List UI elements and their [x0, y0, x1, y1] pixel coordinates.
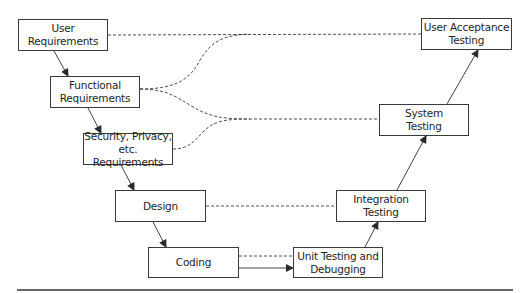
- arrow-user-req-to-func-req: [54, 51, 68, 76]
- node-label: Functional Requirements: [60, 79, 131, 105]
- node-user-requirements: User Requirements: [18, 19, 108, 51]
- node-unit-testing-debugging: Unit Testing and Debugging: [293, 247, 383, 278]
- node-coding: Coding: [148, 247, 239, 278]
- node-label: User Acceptance Testing: [424, 21, 509, 47]
- node-user-acceptance-testing: User Acceptance Testing: [421, 18, 512, 50]
- arrow-unit-test-to-integ-test: [365, 222, 378, 247]
- node-label: User Requirements: [28, 22, 99, 48]
- node-label: Security, Privacy, etc. Requirements: [84, 130, 172, 169]
- arrow-sec-req-to-design: [121, 165, 134, 190]
- node-label: Integration Testing: [353, 193, 409, 219]
- node-label: Unit Testing and Debugging: [297, 250, 379, 276]
- arrow-sys-test-to-uat: [447, 50, 478, 104]
- dashed-link-sec-req-to-sys-test: [173, 119, 250, 149]
- node-label: System Testing: [405, 107, 443, 133]
- node-design: Design: [115, 190, 206, 222]
- node-security-privacy-requirements: Security, Privacy, etc. Requirements: [83, 133, 173, 165]
- v-model-diagram: User Requirements Functional Requirement…: [0, 0, 525, 293]
- dashed-link-func-req-to-sys-test: [140, 89, 379, 119]
- node-system-testing: System Testing: [379, 104, 469, 136]
- node-integration-testing: Integration Testing: [336, 190, 426, 222]
- dashed-link-func-req-to-uat: [140, 34, 250, 89]
- node-label: Design: [143, 200, 178, 213]
- node-functional-requirements: Functional Requirements: [50, 76, 140, 108]
- arrow-design-to-coding: [153, 222, 166, 247]
- arrow-integ-test-to-sys-test: [397, 136, 426, 190]
- node-label: Coding: [176, 256, 211, 269]
- dashed-link-user-req-to-uat: [108, 34, 421, 35]
